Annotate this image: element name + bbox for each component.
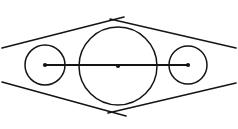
middle-center-point xyxy=(116,64,120,68)
tangent-line-lower-right xyxy=(108,83,236,113)
figure-container xyxy=(0,0,238,129)
tangent-line-upper-left xyxy=(2,17,124,48)
tangent-line-upper-right xyxy=(110,19,236,48)
tangent-line-lower-left xyxy=(2,82,126,116)
geometry-diagram xyxy=(0,0,238,129)
left-center-point xyxy=(43,63,47,67)
right-center-point xyxy=(186,63,190,67)
